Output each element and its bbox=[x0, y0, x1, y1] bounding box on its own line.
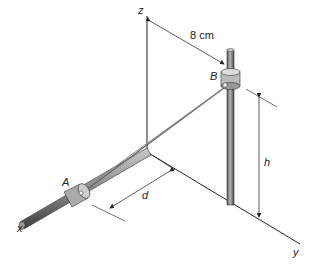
cord-AB-2 bbox=[84, 87, 225, 189]
point-A-label: A bbox=[61, 176, 69, 188]
vertical-rod-top bbox=[227, 49, 234, 52]
y-axis bbox=[147, 152, 300, 244]
dim-d-label: d bbox=[142, 189, 149, 201]
dim-h-label: h bbox=[264, 156, 270, 168]
dim-8cm-line bbox=[150, 21, 224, 64]
h-ext-line bbox=[246, 89, 277, 107]
x-axis-label: x bbox=[16, 222, 23, 234]
z-axis-label: z bbox=[137, 4, 144, 16]
d-ext-line-2 bbox=[92, 205, 125, 221]
point-B-label: B bbox=[210, 70, 217, 82]
cord-AB-1 bbox=[82, 88, 224, 193]
dim-d-line bbox=[110, 171, 170, 208]
d-ext-line-1 bbox=[147, 152, 175, 170]
statics-diagram: z y x B A 8 cm h d bbox=[0, 0, 314, 266]
collar-B bbox=[221, 69, 240, 90]
y-axis-label: y bbox=[292, 246, 300, 258]
diagram-canvas: z y x B A 8 cm h d bbox=[0, 0, 314, 266]
dim-8cm-label: 8 cm bbox=[190, 29, 214, 41]
